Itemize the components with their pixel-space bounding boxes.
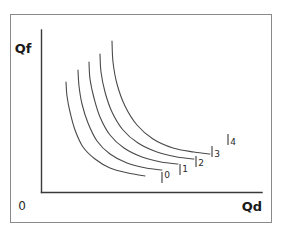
y-axis-label: Qf (15, 41, 32, 56)
curve-label-1: 1 (182, 164, 188, 174)
origin-label: 0 (18, 199, 26, 213)
curve-label-2: 2 (198, 158, 204, 168)
curve-label-3: 3 (214, 149, 220, 159)
x-axis-label: Qd (242, 199, 262, 214)
curve-label-4: 4 (230, 137, 236, 147)
curve-label-0: 0 (164, 170, 170, 180)
figure-border (11, 15, 272, 223)
figure-container: Qf Qd 0 01234 (0, 0, 282, 231)
indifference-curve-diagram: Qf Qd 0 01234 (0, 0, 282, 231)
